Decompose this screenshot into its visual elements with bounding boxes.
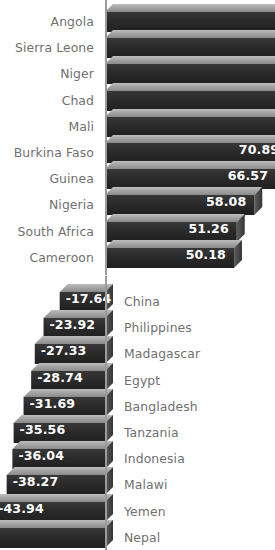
category-label: Niger [60,66,94,81]
category-label: South Africa [18,224,95,239]
bar-value-label: -38.27 [13,474,59,489]
category-label: Philippines [124,320,192,335]
bar-chart: AngolaSierra LeoneNigerChad77Mali70.89Bu… [0,0,275,550]
category-label: Tanzania [124,425,179,440]
category-label: Angola [51,14,94,29]
bar-row: 77 [0,109,275,137]
bar-value-label: 70.89 [239,142,275,157]
bar-value-label: -43.94 [0,501,44,516]
bar-value-label: -36.04 [18,448,64,463]
bar-value-label: 51.26 [188,221,228,236]
category-label: Egypt [124,373,160,388]
category-label: Nepal [124,530,160,545]
category-label: Madagascar [124,346,200,361]
bar-row [0,56,275,84]
bar-value-label: -35.56 [20,422,66,437]
category-label: Guinea [49,171,94,186]
bar-value-label: -23.92 [50,317,96,332]
category-label: China [124,294,160,309]
bar-value-label: -31.69 [30,396,76,411]
category-label: Nigeria [49,197,94,212]
bar-value-label: 50.18 [186,247,226,262]
category-label: Sierra Leone [15,40,94,55]
category-label: Burkina Faso [14,145,94,160]
category-label: Mali [68,119,94,134]
bar-row [0,83,275,111]
axis-line-top [105,0,107,275]
category-label: Cameroon [29,250,94,265]
bar-value-label: -28.74 [37,370,83,385]
bar-row: 58.08 [0,187,275,215]
bar-row: 66.57 [0,161,275,189]
category-label: Malawi [124,477,168,492]
category-label: Bangladesh [124,399,198,414]
bar-value-label: -27.33 [41,343,87,358]
category-label: Yemen [124,504,166,519]
bar-value-label: 66.57 [228,168,268,183]
category-label: Indonesia [124,451,185,466]
category-label: Chad [62,93,94,108]
axis-line-bottom [105,276,107,550]
bar-row [0,4,275,32]
bar-value-label: 58.08 [206,194,246,209]
